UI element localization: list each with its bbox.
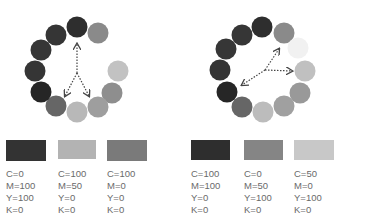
wheel-circle [252,17,273,38]
m-value: M=50 [58,180,86,192]
swatch-5 [244,140,283,160]
k-value: K=0 [6,204,35,216]
dotted-arrow-icon [265,49,279,70]
wheel-circle [31,40,52,61]
cmyk-label-3: C=100 M=0 Y=0 K=0 [107,168,135,216]
cmyk-label-2: C=100 M=50 Y=0 K=0 [58,168,86,216]
right-color-wheel [210,17,316,123]
wheel-circle [232,25,253,46]
wheel-circle [88,97,109,118]
left-color-wheel [25,17,129,123]
wheel-circle [31,82,52,103]
k-value: K=0 [58,204,86,216]
swatch-1 [6,140,46,161]
wheel-circle [210,60,231,81]
c-value: C=0 [6,168,35,180]
y-value: Y=100 [244,192,272,204]
wheel-circle [25,61,46,82]
c-value: C=100 [191,168,220,180]
k-value: K=0 [191,204,220,216]
wheel-circle [103,39,124,60]
wheel-circle [232,97,253,118]
c-value: C=100 [58,168,86,180]
swatch-4 [191,140,230,160]
dotted-arrow-icon [242,70,265,85]
k-value: K=0 [107,204,135,216]
dotted-arrow-icon [65,73,77,96]
wheel-circle [67,17,88,38]
swatch-2 [58,140,96,159]
swatch-6 [294,140,334,160]
wheel-circle [217,82,238,103]
color-wheels [0,0,365,135]
wheel-circle [88,23,109,44]
c-value: C=50 [294,168,322,180]
wheel-circle [46,25,67,46]
wheel-circle [253,102,274,123]
y-value: Y=0 [191,192,220,204]
wheel-circle [108,61,129,82]
wheel-circle [274,96,295,117]
cmyk-label-1: C=0 M=100 Y=100 K=0 [6,168,35,216]
m-value: M=0 [107,180,135,192]
cmyk-label-4: C=100 M=100 Y=0 K=0 [191,168,220,216]
y-value: Y=0 [107,192,135,204]
m-value: M=0 [294,180,322,192]
dotted-arrow-icon [265,70,292,71]
wheel-circle [216,39,237,60]
wheel-circle [288,38,309,59]
wheel-circle [67,102,88,123]
wheel-circle [295,61,316,82]
c-value: C=100 [107,168,135,180]
cmyk-label-6: C=50 M=0 Y=100 K=0 [294,168,322,216]
c-value: C=0 [244,168,272,180]
m-value: M=100 [191,180,220,192]
y-value: Y=0 [58,192,86,204]
dotted-arrow-icon [77,73,89,96]
cmyk-label-5: C=0 M=50 Y=100 K=0 [244,168,272,216]
m-value: M=100 [6,180,35,192]
y-value: Y=100 [6,192,35,204]
y-value: Y=100 [294,192,322,204]
m-value: M=50 [244,180,272,192]
swatch-3 [107,140,147,161]
k-value: K=0 [244,204,272,216]
k-value: K=0 [294,204,322,216]
